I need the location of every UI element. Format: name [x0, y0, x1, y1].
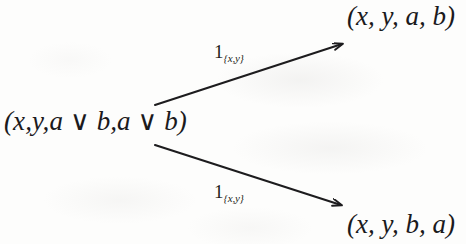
upper-arrow: [155, 44, 342, 105]
node-source: (x,y,a ∨ b,a ∨ b): [4, 108, 187, 135]
lower-arrow-label-subscript: {x,y}: [224, 192, 244, 204]
lower-arrow-label-main: 1: [214, 181, 224, 202]
upper-arrow-label-subscript: {x,y}: [224, 52, 244, 64]
lower-arrow: [155, 145, 341, 205]
lower-arrow-label: 1{x,y}: [214, 182, 244, 204]
node-target-bottom: (x, y, b, a): [347, 211, 455, 238]
node-target-top: (x, y, a, b): [347, 3, 455, 30]
upper-arrow-label-main: 1: [214, 41, 224, 62]
upper-arrow-label: 1{x,y}: [214, 42, 244, 64]
commutative-diagram: (x,y,a ∨ b,a ∨ b) (x, y, a, b) (x, y, b,…: [0, 0, 466, 244]
